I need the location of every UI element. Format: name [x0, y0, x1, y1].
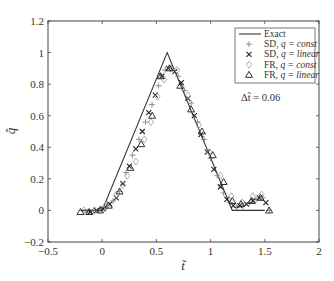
triangle-marker-icon	[220, 179, 227, 185]
x-tick-label: 2	[316, 245, 322, 257]
y-axis-label: q̂	[3, 127, 18, 134]
y-tick-label: 0.8	[30, 78, 44, 90]
x-tick-label: 0	[99, 245, 105, 257]
x-marker-icon	[140, 129, 145, 134]
y-tick-label: −0.2	[24, 236, 44, 248]
timestep-annotation: Δt̃ = 0.06	[241, 92, 280, 103]
legend-item-label: FR, q = linear	[264, 70, 319, 80]
plus-marker-icon	[130, 152, 136, 158]
x-tick-label: 1	[208, 245, 214, 257]
y-tick-label: 0	[39, 204, 45, 216]
y-tick-label: 0.4	[30, 141, 44, 153]
x-tick-label: 0.5	[150, 245, 164, 257]
legend-item-label: SD, q = linear	[264, 49, 320, 59]
series-fr-q-linear	[77, 65, 273, 215]
triangle-marker-icon	[77, 209, 84, 215]
series-fr-q-const	[81, 65, 264, 214]
plus-marker-icon	[156, 83, 162, 89]
legend: ExactSD, q = constSD, q = linearFR, q = …	[235, 28, 320, 83]
diamond-marker-icon	[142, 136, 147, 143]
diamond-marker-icon	[133, 158, 138, 165]
y-tick-label: 0.6	[30, 110, 44, 122]
diamond-marker-icon	[148, 119, 153, 126]
legend-item-label: Exact	[264, 29, 286, 39]
plus-marker-icon	[149, 102, 155, 108]
y-tick-label: 1.2	[30, 15, 44, 27]
chart: −0.500.511.52−0.200.20.40.60.811.2 t̃ q̂…	[0, 0, 334, 281]
diamond-marker-icon	[125, 172, 130, 179]
y-tick-label: 1	[39, 47, 45, 59]
plus-marker-icon	[143, 119, 149, 125]
legend-item-label: FR, q = const	[264, 60, 317, 70]
legend-item-label: SD, q = const	[264, 39, 317, 49]
x-tick-label: 1.5	[258, 245, 272, 257]
x-axis-label: t̃	[181, 258, 187, 273]
y-tick-label: 0.2	[30, 173, 44, 185]
